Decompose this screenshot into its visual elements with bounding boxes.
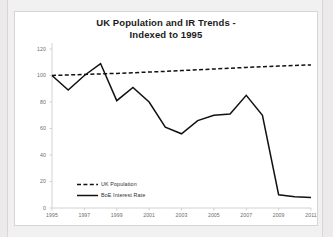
chart-svg [15, 12, 319, 227]
legend-marker-group [77, 185, 98, 196]
y-tick-label: 60 [30, 125, 46, 131]
plot-area: 020406080100120 199519971999200120032005… [15, 12, 319, 227]
x-tick-label: 2001 [137, 212, 161, 218]
x-tick-label: 2011 [299, 212, 323, 218]
legend-label-0: UK Population [101, 181, 137, 187]
series-line-1 [52, 64, 311, 198]
chart-container[interactable]: UK Population and IR Trends - Indexed to… [14, 11, 318, 226]
y-tick-label: 100 [30, 72, 46, 78]
y-tick-label: 0 [30, 205, 46, 211]
x-tick-label: 2007 [234, 212, 258, 218]
y-tick-label: 20 [30, 178, 46, 184]
y-tick-label: 40 [30, 152, 46, 158]
y-tick-label: 120 [30, 46, 46, 52]
x-tick-label: 2005 [202, 212, 226, 218]
legend-label-1: BoE Interest Rate [101, 192, 145, 198]
axis-group [50, 43, 312, 211]
y-tick-label: 80 [30, 99, 46, 105]
x-tick-label: 1997 [72, 212, 96, 218]
screenshot-root: UK Population and IR Trends - Indexed to… [0, 0, 333, 237]
x-tick-label: 2003 [170, 212, 194, 218]
series-group [52, 64, 311, 198]
x-tick-label: 1995 [40, 212, 64, 218]
x-tick-label: 1999 [105, 212, 129, 218]
x-tick-label: 2009 [267, 212, 291, 218]
